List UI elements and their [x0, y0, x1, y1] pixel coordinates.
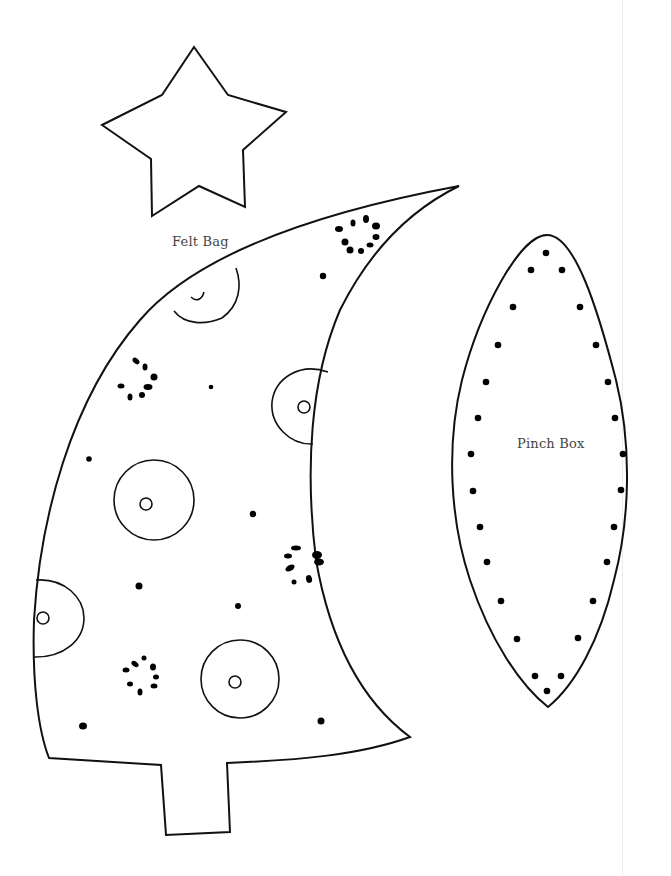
dot-cluster-top — [335, 215, 380, 254]
pinch-box-shape — [452, 235, 627, 707]
ornament-bottom — [201, 640, 279, 718]
ornament-left — [33, 580, 84, 657]
dot-cluster-right — [284, 546, 324, 585]
single-dots — [79, 273, 326, 730]
ornament-top — [174, 268, 239, 323]
felt-bag-label: Felt Bag — [172, 234, 229, 249]
star-shape — [102, 47, 286, 216]
dot-cluster-bottom — [123, 656, 160, 696]
ornament-middle — [114, 460, 194, 540]
dot-cluster-left — [118, 357, 158, 401]
pinch-box-label: Pinch Box — [517, 436, 585, 451]
stitch-dots — [468, 250, 627, 695]
christmas-tree-shape — [33, 186, 459, 835]
